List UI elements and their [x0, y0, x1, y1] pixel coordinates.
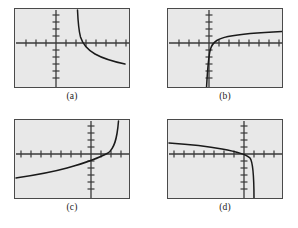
- curve-a: [78, 10, 126, 64]
- curve-c: [16, 121, 119, 178]
- plot-frame-d: [167, 119, 283, 199]
- panel-caption-d: (d): [167, 201, 283, 213]
- panel-caption-b: (b): [167, 90, 283, 102]
- plot-svg-a: [15, 9, 130, 88]
- curve-d: [169, 143, 254, 199]
- plot-svg-b: [168, 9, 283, 88]
- plot-svg-d: [168, 120, 283, 199]
- panel-caption-a: (a): [14, 90, 130, 102]
- panel-caption-c: (c): [14, 201, 130, 213]
- plot-frame-c: [14, 119, 130, 199]
- figure-root: (a): [0, 0, 298, 228]
- plot-frame-a: [14, 8, 130, 88]
- plot-frame-b: [167, 8, 283, 88]
- plot-svg-c: [15, 120, 130, 199]
- curve-b: [207, 32, 283, 89]
